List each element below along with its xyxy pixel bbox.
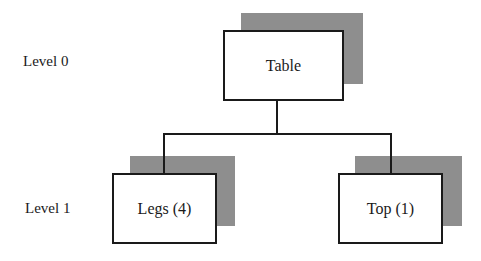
legs-node: Legs (4) (112, 173, 217, 244)
level-0-label: Level 0 (23, 53, 68, 70)
legs-node-label: Legs (4) (138, 200, 192, 218)
table-node: Table (223, 30, 344, 101)
table-node-label: Table (266, 57, 301, 75)
legs-connector-line (163, 133, 165, 174)
sibling-bar-line (163, 133, 392, 135)
top-node-label: Top (1) (367, 200, 414, 218)
top-connector-line (390, 133, 392, 174)
level-1-label: Level 1 (25, 200, 70, 217)
top-node: Top (1) (338, 173, 443, 244)
root-connector-line (276, 100, 278, 134)
